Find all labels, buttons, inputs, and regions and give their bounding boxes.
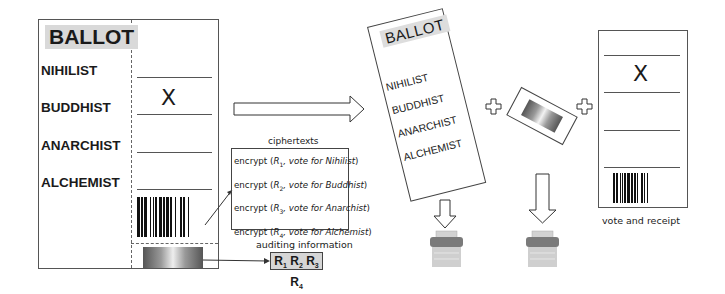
ciphertexts-box: encrypt (R1, vote for Nihilist) encrypt … <box>231 148 349 230</box>
ciphertext-row: encrypt (R2, vote for Buddhist) <box>234 175 348 199</box>
audit-r: R <box>290 254 299 268</box>
row-suffix: ) <box>366 203 369 213</box>
barcode-bar <box>647 173 648 203</box>
row-candidate: Nihilist <box>326 156 356 166</box>
row-suffix: ) <box>368 227 371 237</box>
detached-candidate: ANARCHIST <box>396 113 458 139</box>
plus-icon <box>486 99 501 114</box>
arrow-down-icon <box>529 174 556 223</box>
row-candidate: Buddhist <box>326 180 364 190</box>
detached-candidate: ALCHEMIST <box>402 137 463 163</box>
row-mid: , vote for <box>283 227 325 237</box>
audit-sub: 1 <box>283 262 287 269</box>
shredder-icon <box>526 231 559 267</box>
receipt-barcode <box>613 173 648 203</box>
detached-candidate: NIHILIST <box>385 71 430 93</box>
row-candidate: Anarchist <box>326 203 367 213</box>
row-mid: , vote for <box>283 203 325 213</box>
auditing-title: auditing information <box>256 239 353 250</box>
audit-sub: 2 <box>299 262 303 269</box>
ciphertext-row: encrypt (R3, vote for Anarchist) <box>234 198 348 222</box>
row-suffix: ) <box>355 156 358 166</box>
receipt-caption: vote and receipt <box>602 215 680 226</box>
auditing-values-box: R1 R2 R3 R4 <box>270 252 323 270</box>
receipt-vote-mark: X <box>633 63 648 85</box>
row-mid: , vote for <box>283 156 325 166</box>
audit-r: R <box>306 254 315 268</box>
row-prefix: encrypt ( <box>234 156 273 166</box>
detached-candidate: BUDDHIST <box>390 92 445 117</box>
audit-sub: 3 <box>315 262 319 269</box>
plus-icon <box>577 99 592 114</box>
receipt-line <box>604 130 680 131</box>
receipt-line <box>604 55 680 56</box>
receipt-line <box>604 167 680 168</box>
row-candidate: Alchemist <box>326 227 369 237</box>
receipt-line <box>604 92 680 93</box>
barcode-to-ciphertexts-connector <box>205 190 232 225</box>
row-prefix: encrypt ( <box>234 180 273 190</box>
ciphertext-row: encrypt (R1, vote for Nihilist) <box>234 151 348 175</box>
strip-to-audit-connector <box>203 260 268 261</box>
arrow-right-icon <box>234 96 364 122</box>
row-prefix: encrypt ( <box>234 203 273 213</box>
vote-receipt: X <box>598 30 688 208</box>
audit-r: R <box>290 275 299 289</box>
audit-r: R <box>274 254 283 268</box>
row-mid: , vote for <box>283 180 325 190</box>
shredder-icon <box>430 231 463 267</box>
row-prefix: encrypt ( <box>234 227 273 237</box>
ciphertexts-title: ciphertexts <box>268 136 319 146</box>
audit-sub: 4 <box>299 284 303 291</box>
arrow-down-icon <box>434 200 456 228</box>
row-suffix: ) <box>364 180 367 190</box>
